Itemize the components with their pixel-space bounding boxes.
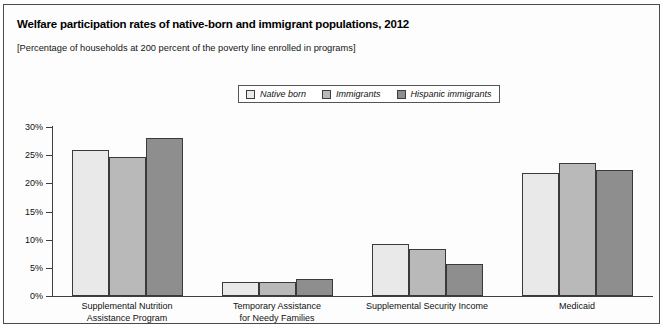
x-axis-category-label: Medicaid: [559, 301, 595, 313]
category-label-line: Medicaid: [559, 301, 595, 313]
page-title: Welfare participation rates of native-bo…: [17, 18, 409, 30]
y-axis-label: 0%: [4, 291, 43, 301]
x-axis-category-label: Temporary Assistancefor Needy Families: [233, 301, 321, 324]
y-axis-tick: [46, 296, 52, 297]
plot-area: [52, 127, 652, 296]
x-axis-line: [52, 296, 653, 297]
bar-group-2: [372, 127, 483, 296]
legend-swatch-icon: [397, 90, 406, 99]
category-label-line: Assistance Program: [81, 313, 172, 325]
y-axis-label: 30%: [4, 122, 43, 132]
bar: [372, 244, 409, 296]
bar-group-3: [522, 127, 633, 296]
chart-frame: Welfare participation rates of native-bo…: [3, 4, 660, 324]
y-axis-label: 15%: [4, 207, 43, 217]
bar: [296, 279, 333, 296]
chart-legend: Native bornImmigrantsHispanic immigrants: [238, 85, 500, 103]
category-label-line: Temporary Assistance: [233, 301, 321, 313]
legend-entry-0: Native born: [246, 89, 306, 99]
legend-entry-2: Hispanic immigrants: [397, 89, 492, 99]
y-axis-label: 10%: [4, 235, 43, 245]
bar: [559, 163, 596, 296]
legend-label: Native born: [260, 89, 306, 99]
legend-swatch-icon: [246, 90, 255, 99]
bar: [72, 150, 109, 296]
bar: [409, 249, 446, 296]
y-axis-label: 25%: [4, 150, 43, 160]
legend-label: Hispanic immigrants: [411, 89, 492, 99]
x-axis-category-label: Supplemental Security Income: [366, 301, 488, 313]
category-label-line: Supplemental Security Income: [366, 301, 488, 313]
bar: [596, 170, 633, 296]
legend-label: Immigrants: [336, 89, 381, 99]
bar-group-0: [72, 127, 183, 296]
category-label-line: Supplemental Nutrition: [81, 301, 172, 313]
legend-entry-1: Immigrants: [322, 89, 381, 99]
y-axis-label: 5%: [4, 263, 43, 273]
legend-swatch-icon: [322, 90, 331, 99]
bars-layer: [52, 127, 652, 296]
bar: [446, 264, 483, 296]
bar: [522, 173, 559, 296]
bar: [109, 157, 146, 296]
bar: [146, 138, 183, 296]
y-axis-label: 20%: [4, 178, 43, 188]
bar-group-1: [222, 127, 333, 296]
bar: [222, 282, 259, 296]
category-label-line: for Needy Families: [233, 313, 321, 325]
chart-subtitle: [Percentage of households at 200 percent…: [17, 43, 356, 53]
x-axis-category-label: Supplemental NutritionAssistance Program: [81, 301, 172, 324]
bar: [259, 282, 296, 296]
x-axis-category-labels: Supplemental NutritionAssistance Program…: [52, 301, 653, 330]
